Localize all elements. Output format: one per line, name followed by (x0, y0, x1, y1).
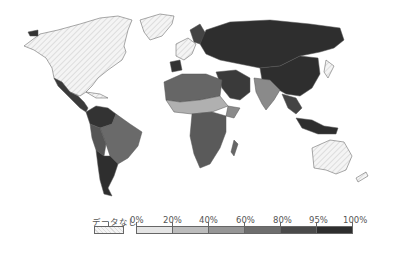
legend-tick (316, 222, 317, 234)
legend-bin-95-100 (316, 226, 353, 234)
legend-tick-label: 80% (273, 215, 292, 225)
region-indonesia (296, 118, 338, 134)
legend-tick-label: 95% (309, 215, 328, 225)
legend-bin-80-95 (280, 226, 317, 234)
legend-bin-60-80 (244, 226, 281, 234)
region-caribbean (86, 92, 108, 98)
legend-tick-label: 100% (343, 215, 367, 225)
legend-tick (244, 222, 245, 234)
legend-bin-0-20 (136, 226, 173, 234)
map-legend: データなし 0% 20% 40% 60% 80% 95% 100% (0, 205, 414, 257)
legend-tick (352, 222, 353, 234)
legend-bin-20-40 (172, 226, 209, 234)
world-map (0, 0, 414, 205)
region-greenland (140, 14, 174, 40)
region-new-zealand (356, 172, 368, 182)
region-sub-saharan-africa (190, 112, 226, 168)
region-southeast-asia (282, 94, 302, 114)
region-japan (324, 60, 334, 78)
legend-tick-label: 60% (236, 215, 255, 225)
region-australia (312, 140, 352, 174)
legend-tick (136, 222, 137, 234)
region-iberia (170, 60, 182, 72)
region-north-america (24, 16, 132, 96)
legend-no-data-swatch (94, 226, 124, 234)
legend-tick (208, 222, 209, 234)
region-horn-of-africa (226, 106, 240, 118)
region-russia (200, 20, 344, 68)
legend-tick (280, 222, 281, 234)
legend-bin-40-60 (208, 226, 245, 234)
region-western-europe (176, 38, 196, 60)
region-alaska-tip (28, 30, 38, 36)
region-madagascar (231, 140, 238, 156)
legend-tick (172, 222, 173, 234)
